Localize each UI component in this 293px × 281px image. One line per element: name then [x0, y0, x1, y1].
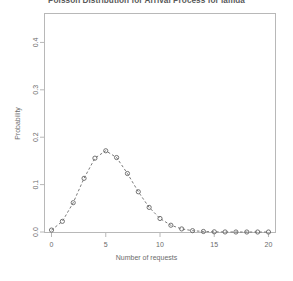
- x-axis-ticks: 05101520: [50, 232, 273, 248]
- y-tick-label: 0.0: [32, 227, 39, 237]
- plot-frame: [45, 14, 276, 233]
- data-point: [82, 176, 86, 180]
- y-axis-ticks: 0.00.10.20.30.4: [32, 37, 45, 236]
- data-series-line: [52, 151, 269, 232]
- series-polyline: [52, 151, 269, 232]
- data-point: [136, 190, 140, 194]
- data-point: [93, 156, 97, 160]
- x-tick-label: 20: [265, 241, 273, 248]
- plot-area: 0.00.10.20.30.4 05101520: [0, 0, 293, 281]
- y-tick-label: 0.4: [32, 37, 39, 47]
- data-point: [158, 216, 162, 220]
- data-series-points: [49, 149, 270, 234]
- y-tick-label: 0.2: [32, 132, 39, 142]
- x-tick-label: 15: [210, 241, 218, 248]
- poisson-distribution-chart: Poisson Distribution for Arrival Process…: [0, 0, 293, 281]
- y-tick-label: 0.3: [32, 85, 39, 95]
- data-point: [60, 219, 64, 223]
- x-tick-label: 0: [50, 241, 54, 248]
- x-tick-label: 10: [156, 241, 164, 248]
- y-tick-label: 0.1: [32, 180, 39, 190]
- x-tick-label: 5: [104, 241, 108, 248]
